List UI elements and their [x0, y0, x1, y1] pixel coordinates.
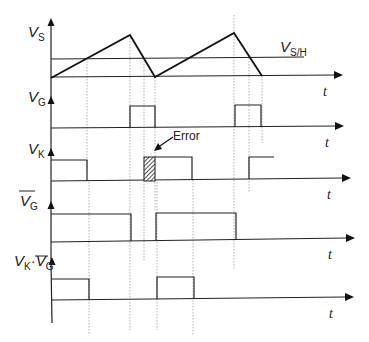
vg-bar-channel: VG t	[19, 191, 355, 262]
arrow-right-icon	[334, 71, 343, 79]
vg-bar-pulse	[156, 213, 236, 241]
arrow-up-icon	[48, 148, 55, 156]
vsh-label: VS/H	[280, 38, 307, 58]
error-region	[144, 157, 155, 181]
vk-and-vg-bar-label: VK·VG	[14, 252, 54, 272]
arrow-up-icon	[48, 18, 55, 26]
vs-time-axis	[51, 75, 336, 77]
error-label: Error	[173, 129, 200, 143]
vs-label: VS	[28, 23, 45, 43]
vk-pulse	[249, 157, 274, 179]
arrow-right-icon	[345, 293, 354, 301]
output-pulse	[157, 277, 194, 299]
vk-and-vg-bar-time-axis	[52, 297, 345, 300]
vs-time-label: t	[323, 84, 328, 99]
output-pulse	[52, 279, 89, 300]
vg-pulse	[235, 105, 261, 127]
guide-lines	[87, 15, 262, 335]
vg-bar-time-axis	[51, 238, 346, 242]
vg-pulse	[130, 106, 155, 128]
vg-bar-time-label: t	[328, 247, 333, 262]
vk-label: VK	[28, 140, 45, 160]
vg-bar-label: VG	[20, 192, 38, 212]
sawtooth-waveform	[51, 33, 262, 78]
arrow-right-icon	[342, 174, 351, 182]
arrow-right-icon	[335, 122, 344, 130]
vg-bar-pulse	[51, 214, 131, 241]
vertical-axis	[48, 18, 56, 323]
arrow-right-icon	[346, 234, 355, 242]
vg-label: VG	[28, 88, 46, 108]
arrow-up-icon	[48, 96, 55, 104]
vs-channel: VS VS/H t	[28, 23, 343, 99]
vg-time-axis	[51, 126, 336, 128]
vk-pulse	[155, 157, 192, 180]
vk-time-axis	[51, 178, 343, 181]
vk-time-label: t	[327, 187, 332, 202]
timing-diagram: VS VS/H t VG t VK Error t VG	[0, 0, 369, 342]
vk-channel: VK Error t	[28, 129, 351, 202]
vk-and-vg-bar-channel: VK·VG t	[14, 252, 354, 321]
vg-time-label: t	[325, 135, 330, 150]
arrow-up-icon	[48, 201, 55, 209]
output-time-label: t	[329, 306, 334, 321]
vk-pulse	[51, 160, 87, 181]
